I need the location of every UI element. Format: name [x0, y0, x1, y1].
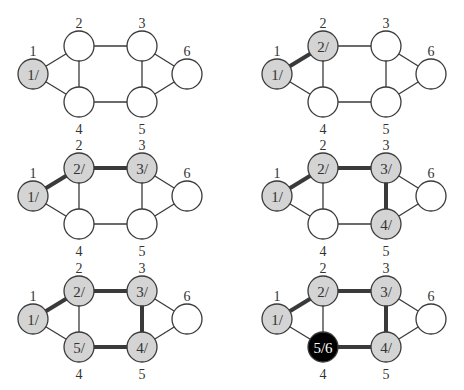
panel-step-4: 1/12/23/344/56: [262, 138, 446, 259]
vertex-4-timestamp: 5/: [73, 340, 86, 356]
vertex-1-label: 1: [30, 166, 37, 181]
vertex-5-label: 5: [139, 122, 146, 137]
panel-step-3: 1/12/23/3456: [18, 138, 202, 259]
vertex-5-timestamp: 4/: [136, 340, 149, 356]
vertex-5: [371, 87, 401, 117]
vertex-6: [416, 304, 446, 334]
vertex-2: [64, 31, 94, 61]
vertex-6-label: 6: [428, 166, 435, 181]
vertex-4-label: 4: [76, 244, 83, 259]
vertex-1-label: 1: [274, 289, 281, 304]
vertex-1-timestamp: 1/: [27, 312, 40, 328]
panel-step-1: 1/123456: [18, 16, 202, 137]
vertex-4-label: 4: [320, 122, 327, 137]
vertex-1-label: 1: [274, 166, 281, 181]
vertex-4-label: 4: [320, 367, 327, 382]
vertex-4: [64, 209, 94, 239]
vertex-5-label: 5: [139, 367, 146, 382]
vertex-2-label: 2: [76, 16, 83, 31]
vertex-5-label: 5: [383, 367, 390, 382]
vertex-1-timestamp: 1/: [271, 189, 284, 205]
vertex-3-timestamp: 3/: [380, 284, 393, 300]
vertex-5-label: 5: [139, 244, 146, 259]
vertex-4: [308, 87, 338, 117]
vertex-5-timestamp: 4/: [380, 340, 393, 356]
vertex-6: [172, 181, 202, 211]
vertex-6: [172, 304, 202, 334]
vertex-5-timestamp: 4/: [380, 217, 393, 233]
vertex-4-label: 4: [76, 367, 83, 382]
vertex-1-label: 1: [30, 289, 37, 304]
vertex-5: [127, 209, 157, 239]
vertex-2-timestamp: 2/: [73, 161, 86, 177]
vertex-6-label: 6: [184, 44, 191, 59]
vertex-3-label: 3: [139, 138, 146, 153]
vertex-2-label: 2: [320, 138, 327, 153]
vertex-4: [64, 87, 94, 117]
vertex-2-timestamp: 2/: [317, 39, 330, 55]
panel-step-6: 1/12/23/35/644/56: [262, 261, 446, 382]
panel-step-5: 1/12/23/35/44/56: [18, 261, 202, 382]
vertex-3-timestamp: 3/: [136, 161, 149, 177]
vertex-3-timestamp: 3/: [136, 284, 149, 300]
vertex-2-label: 2: [76, 138, 83, 153]
vertex-2-label: 2: [320, 16, 327, 31]
dfs-figure: 1/1234561/12/234561/12/23/34561/12/23/34…: [0, 0, 464, 390]
vertex-1-timestamp: 1/: [271, 67, 284, 83]
vertex-1-timestamp: 1/: [27, 67, 40, 83]
vertex-5: [127, 87, 157, 117]
vertex-6: [416, 59, 446, 89]
vertex-3-timestamp: 3/: [380, 161, 393, 177]
vertex-6-label: 6: [184, 166, 191, 181]
vertex-5-label: 5: [383, 244, 390, 259]
vertex-2-label: 2: [320, 261, 327, 276]
vertex-3-label: 3: [383, 138, 390, 153]
vertex-4-label: 4: [76, 122, 83, 137]
vertex-3-label: 3: [139, 261, 146, 276]
vertex-1-timestamp: 1/: [271, 312, 284, 328]
vertex-3-label: 3: [139, 16, 146, 31]
vertex-4-timestamp: 5/6: [313, 340, 333, 356]
vertex-6: [416, 181, 446, 211]
vertex-6-label: 6: [184, 289, 191, 304]
vertex-4: [308, 209, 338, 239]
vertex-3-label: 3: [383, 261, 390, 276]
vertex-6-label: 6: [428, 289, 435, 304]
panel-step-2: 1/12/23456: [262, 16, 446, 137]
vertex-2-label: 2: [76, 261, 83, 276]
vertex-5-label: 5: [383, 122, 390, 137]
vertex-3: [127, 31, 157, 61]
vertex-3-label: 3: [383, 16, 390, 31]
vertex-1-label: 1: [30, 44, 37, 59]
vertex-2-timestamp: 2/: [317, 284, 330, 300]
vertex-6: [172, 59, 202, 89]
vertex-1-timestamp: 1/: [27, 189, 40, 205]
vertex-3: [371, 31, 401, 61]
vertex-4-label: 4: [320, 244, 327, 259]
vertex-1-label: 1: [274, 44, 281, 59]
vertex-2-timestamp: 2/: [73, 284, 86, 300]
vertex-2-timestamp: 2/: [317, 161, 330, 177]
vertex-6-label: 6: [428, 44, 435, 59]
